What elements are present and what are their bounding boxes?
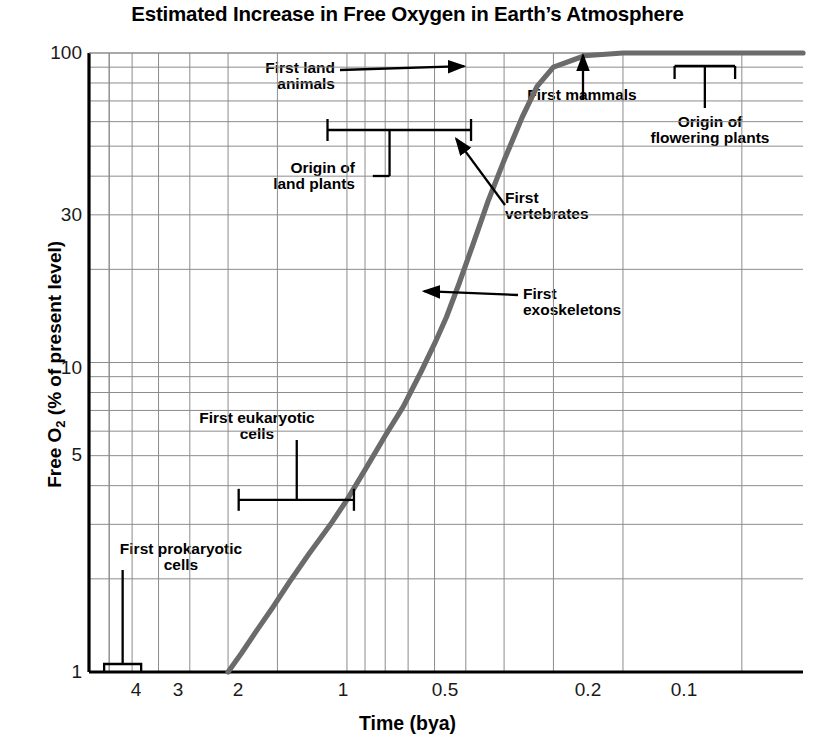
annotation-markers xyxy=(104,55,735,672)
gridlines xyxy=(89,53,803,672)
oxygen-chart-figure: Estimated Increase in Free Oxygen in Ear… xyxy=(0,0,815,753)
plot-area xyxy=(0,0,815,753)
